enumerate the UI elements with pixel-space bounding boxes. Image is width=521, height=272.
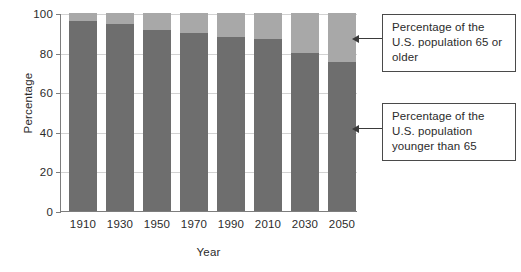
bar-segment-younger-than-65: [254, 39, 282, 211]
y-tick-mark: [56, 133, 61, 134]
bar-segment-65-or-older: [254, 13, 282, 39]
bar-segment-younger-than-65: [328, 62, 356, 211]
y-tick-label: 20: [40, 166, 53, 178]
bar-segment-65-or-older: [217, 13, 245, 37]
stacked-bar-chart-figure: Percentage 02040608010019101930195019701…: [0, 0, 521, 272]
x-axis-title: Year: [60, 246, 357, 258]
y-tick-mark: [56, 14, 61, 15]
callout-arrow-lower-icon: [352, 125, 359, 133]
bar: [180, 13, 208, 211]
bar-segment-younger-than-65: [106, 24, 134, 211]
x-tick-label: 1910: [70, 218, 96, 230]
bar-segment-65-or-older: [69, 13, 97, 21]
y-tick-mark: [56, 93, 61, 94]
y-tick-mark: [56, 54, 61, 55]
bar: [328, 13, 356, 211]
bar-segment-younger-than-65: [291, 53, 319, 211]
bar-segment-younger-than-65: [180, 33, 208, 211]
y-tick-mark: [56, 212, 61, 213]
bar: [291, 13, 319, 211]
x-tick-label: 2030: [292, 218, 318, 230]
x-tick-label: 1930: [107, 218, 133, 230]
bar-segment-65-or-older: [143, 13, 171, 30]
bar: [217, 13, 245, 211]
bar-segment-younger-than-65: [69, 21, 97, 211]
y-axis-title: Percentage: [22, 48, 34, 158]
bar: [69, 13, 97, 211]
x-tick-label: 2050: [329, 218, 355, 230]
x-tick-label: 1990: [218, 218, 244, 230]
bar-segment-65-or-older: [291, 13, 319, 53]
callout-65-or-older: Percentage of the U.S. population 65 or …: [382, 14, 516, 72]
callout-arrow-upper-icon: [352, 35, 359, 43]
x-tick-label: 2010: [255, 218, 281, 230]
y-tick-label: 80: [40, 48, 53, 60]
x-tick-label: 1950: [144, 218, 170, 230]
y-tick-label: 0: [46, 206, 53, 218]
callout-younger-than-65: Percentage of the U.S. population younge…: [382, 103, 516, 161]
bar: [254, 13, 282, 211]
callout-leader-upper: [358, 38, 382, 39]
bar-segment-65-or-older: [106, 13, 134, 24]
bar-segment-65-or-older: [180, 13, 208, 33]
y-tick-mark: [56, 172, 61, 173]
bar-segment-younger-than-65: [143, 30, 171, 211]
bar-segment-younger-than-65: [217, 37, 245, 211]
bar: [143, 13, 171, 211]
y-tick-label: 60: [40, 87, 53, 99]
callout-leader-lower: [358, 128, 382, 129]
y-tick-label: 40: [40, 127, 53, 139]
x-tick-label: 1970: [181, 218, 207, 230]
bar: [106, 13, 134, 211]
y-tick-label: 100: [33, 8, 53, 20]
plot-area: 0204060801001910193019501970199020102030…: [60, 14, 357, 212]
